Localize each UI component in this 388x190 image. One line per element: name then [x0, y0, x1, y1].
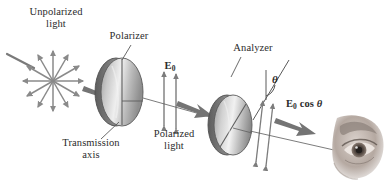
leader-line-analyzer	[231, 57, 241, 77]
e0-symbol: E	[165, 60, 172, 71]
e0-subscript: 0	[172, 64, 176, 73]
propagation-arrow-to-eye	[274, 118, 316, 136]
label-e0-field: E0	[156, 60, 184, 75]
incoming-light-ray	[7, 54, 34, 68]
label-theta-angle: θ	[268, 74, 282, 86]
e0cos-theta: θ	[317, 98, 323, 109]
e0cos-operator: cos	[297, 98, 317, 109]
leader-line-polarizer	[122, 45, 131, 60]
label-analyzer: Analyzer	[222, 42, 284, 54]
label-transmission-axis: Transmission axis	[48, 137, 134, 160]
observer-eye	[332, 115, 383, 179]
analyzer-disk	[208, 95, 252, 155]
analyzer-transmission-axis-line	[253, 60, 289, 120]
beam-axis-line-2	[250, 131, 334, 150]
polarizer-disk	[95, 58, 143, 126]
label-unpolarized-light: Unpolarized light	[14, 6, 98, 29]
label-polarizer: Polarizer	[98, 30, 160, 42]
polarization-figure: Unpolarized light Polarizer Analyzer E0 …	[0, 0, 388, 190]
propagation-arrow-after-polarizer	[176, 101, 213, 118]
unpolarized-light-starburst	[23, 51, 83, 111]
label-polarized-light: Polarized light	[144, 128, 204, 151]
label-e0-cos-theta: E0 cos θ	[286, 98, 352, 113]
e0-field-double-arrows	[164, 72, 176, 129]
